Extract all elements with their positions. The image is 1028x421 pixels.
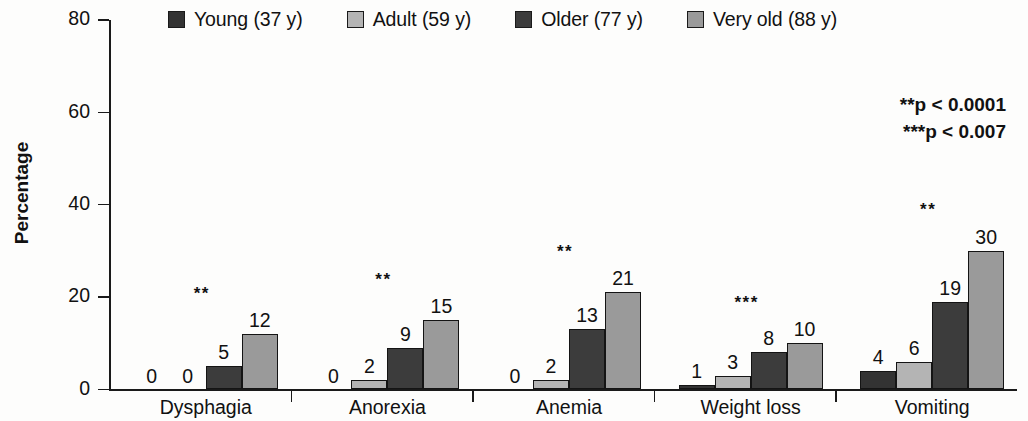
x-axis-tick bbox=[291, 391, 293, 402]
y-axis-tick: 80 bbox=[98, 19, 109, 21]
bar-value-label: 13 bbox=[576, 304, 598, 327]
y-axis-tick-label: 60 bbox=[68, 100, 90, 123]
y-axis-tick: 40 bbox=[98, 204, 109, 206]
x-axis-category-label: Dysphagia bbox=[160, 396, 252, 419]
y-axis-tick: 0 bbox=[98, 389, 109, 391]
bar-value-label: 12 bbox=[249, 309, 271, 332]
bar-value-label: 4 bbox=[873, 346, 884, 369]
significance-marker: *** bbox=[734, 293, 758, 313]
bar: 13 bbox=[569, 329, 605, 389]
bar: 5 bbox=[206, 366, 242, 389]
x-axis-category-label: Anemia bbox=[536, 396, 602, 419]
bar: 2 bbox=[533, 380, 569, 389]
y-axis-line bbox=[109, 20, 111, 391]
x-axis-line bbox=[109, 389, 1017, 391]
x-axis-category-label: Weight loss bbox=[700, 396, 800, 419]
bar-value-label: 5 bbox=[218, 341, 229, 364]
bar-value-label: 3 bbox=[727, 351, 738, 374]
bar-value-label: 6 bbox=[909, 337, 920, 360]
bar: 9 bbox=[387, 348, 423, 390]
plot-area: 020406080 00512**02915**021321**13810***… bbox=[109, 20, 1017, 391]
bar: 30 bbox=[968, 251, 1004, 390]
x-axis-tick bbox=[472, 391, 474, 402]
x-axis-category-label: Anorexia bbox=[349, 396, 426, 419]
y-axis-tick: 60 bbox=[98, 112, 109, 114]
bar: 21 bbox=[605, 292, 641, 389]
bar: 1 bbox=[679, 385, 715, 390]
bar: 15 bbox=[423, 320, 459, 389]
significance-marker: ** bbox=[557, 242, 573, 262]
y-axis-tick: 20 bbox=[98, 296, 109, 298]
significance-marker: ** bbox=[194, 284, 210, 304]
bar-value-label: 0 bbox=[170, 365, 206, 388]
y-axis-tick-label: 20 bbox=[68, 284, 90, 307]
y-axis-tick-label: 0 bbox=[79, 377, 90, 400]
bar: 3 bbox=[715, 376, 751, 390]
bar: 8 bbox=[751, 352, 787, 389]
bar-value-label: 15 bbox=[431, 295, 453, 318]
bar-value-label: 2 bbox=[546, 355, 557, 378]
bar: 12 bbox=[242, 334, 278, 389]
y-axis-title: Percentage bbox=[11, 133, 33, 253]
bar: 10 bbox=[787, 343, 823, 389]
significance-marker: ** bbox=[375, 270, 391, 290]
bar-value-label: 9 bbox=[400, 323, 411, 346]
significance-marker: ** bbox=[920, 200, 936, 220]
bar-value-label: 0 bbox=[134, 365, 170, 388]
bar: 6 bbox=[896, 362, 932, 390]
bar-value-label: 8 bbox=[763, 327, 774, 350]
bar-chart-figure: Young (37 y) Adult (59 y) Older (77 y) V… bbox=[0, 0, 1028, 421]
bar-value-label: 0 bbox=[315, 365, 351, 388]
bar: 2 bbox=[351, 380, 387, 389]
bar-value-label: 0 bbox=[497, 365, 533, 388]
bar-value-label: 2 bbox=[364, 355, 375, 378]
bar-value-label: 10 bbox=[794, 318, 816, 341]
bar: 19 bbox=[932, 302, 968, 390]
bar-value-label: 21 bbox=[612, 267, 634, 290]
bar-value-label: 1 bbox=[691, 360, 702, 383]
bar-value-label: 19 bbox=[939, 277, 961, 300]
x-axis-tick bbox=[835, 391, 837, 402]
bar: 4 bbox=[860, 371, 896, 389]
y-axis-tick-label: 40 bbox=[68, 192, 90, 215]
x-axis-category-label: Vomiting bbox=[895, 396, 970, 419]
bar-value-label: 30 bbox=[975, 226, 997, 249]
y-axis-tick-label: 80 bbox=[68, 7, 90, 30]
x-axis-tick bbox=[654, 391, 656, 402]
